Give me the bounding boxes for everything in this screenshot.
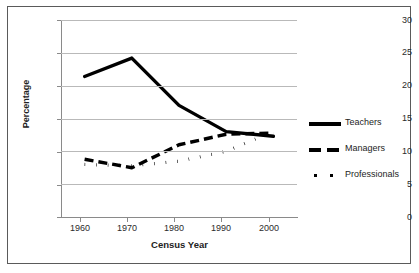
x-tick-label-1960: 1960 <box>60 223 100 233</box>
legend-label-professionals: Professionals <box>345 169 399 179</box>
gridline-25 <box>61 53 297 54</box>
y-tick-label-0: 0 <box>390 213 412 222</box>
gridline-20 <box>61 86 297 87</box>
series-line-teachers <box>85 58 274 136</box>
legend-label-teachers: Teachers <box>345 117 382 127</box>
line-chart: Percentage 30 25 20 15 10 5 0 <box>8 7 412 265</box>
x-tick-mark-2000 <box>269 218 270 222</box>
x-tick-mark-1960 <box>80 218 81 222</box>
legend-label-managers: Managers <box>345 143 385 153</box>
x-tick-mark-1990 <box>221 218 222 222</box>
y-tick-label-25: 25 <box>390 48 412 57</box>
x-tick-label-1990: 1990 <box>201 223 241 233</box>
x-tick-mark-1980 <box>174 218 175 222</box>
x-tick-label-2000: 2000 <box>249 223 289 233</box>
y-tick-label-20: 20 <box>390 81 412 90</box>
x-tick-mark-1970 <box>127 218 128 222</box>
chart-figure-frame: Percentage 30 25 20 15 10 5 0 <box>7 6 411 264</box>
y-tick-label-30: 30 <box>390 16 412 25</box>
legend-item-managers[interactable]: Managers <box>308 139 412 165</box>
legend-swatch-dashed-icon <box>308 145 342 155</box>
gridline-15 <box>61 119 297 120</box>
gridline-30 <box>61 20 297 21</box>
legend-item-teachers[interactable]: Teachers <box>308 113 412 139</box>
series-line-professionals <box>85 132 274 166</box>
gridline-10 <box>61 151 297 152</box>
legend-item-professionals[interactable]: Professionals <box>308 165 412 191</box>
x-tick-label-1970: 1970 <box>107 223 147 233</box>
x-tick-label-1980: 1980 <box>154 223 194 233</box>
gridline-5 <box>61 184 297 185</box>
x-axis-title: Census Year <box>61 239 298 250</box>
legend-swatch-solid-icon <box>308 119 342 129</box>
legend-swatch-dotted-icon <box>308 171 342 181</box>
chart-legend: Teachers Managers Professionals <box>308 113 412 191</box>
plot-area <box>61 20 297 217</box>
y-axis-title: Percentage <box>21 64 31 144</box>
x-axis-line <box>61 217 298 218</box>
